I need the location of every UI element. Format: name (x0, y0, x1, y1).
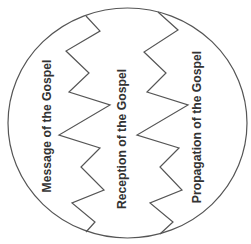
zigzag-divider-right (137, 12, 188, 234)
section-label-message: Message of the Gospel (40, 60, 54, 193)
section-label-propagation: Propagation of the Gospel (190, 51, 204, 203)
diagram-canvas: Message of the Gospel Reception of the G… (0, 0, 251, 244)
gospel-diagram: Message of the Gospel Reception of the G… (0, 0, 251, 244)
zigzag-divider-left (59, 16, 110, 232)
section-label-reception: Reception of the Gospel (115, 69, 129, 209)
